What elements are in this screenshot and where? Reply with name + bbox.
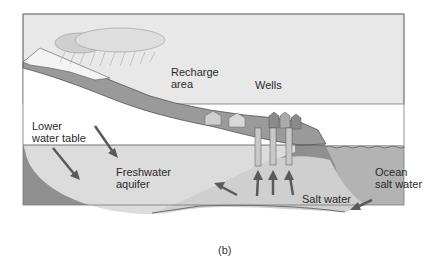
wells-icon (255, 128, 292, 166)
label-lower-water-table: Lower water table (32, 120, 86, 144)
label-ocean-salt-water: Ocean salt water (375, 166, 422, 190)
label-freshwater-aquifer: Freshwater aquifer (116, 166, 171, 190)
figure-caption: (b) (218, 244, 231, 256)
label-salt-water: Salt water (302, 193, 351, 205)
label-recharge-area: Recharge area (171, 66, 219, 90)
label-wells: Wells (255, 79, 282, 91)
